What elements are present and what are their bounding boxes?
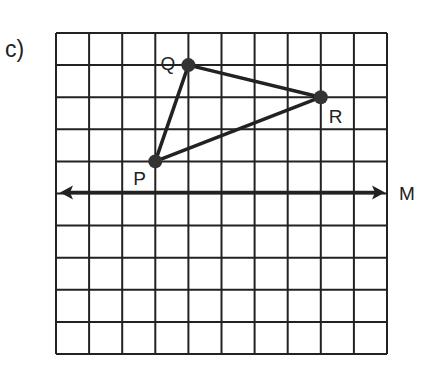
vertex-q-label: Q <box>160 53 175 74</box>
mirror-line-m: M <box>60 183 415 204</box>
vertex-q-dot <box>181 58 195 72</box>
vertex-r-label: R <box>329 106 343 127</box>
triangle-edges <box>155 65 320 161</box>
triangle-pqr <box>155 65 320 161</box>
vertex-r-dot <box>314 90 328 104</box>
vertex-p-dot <box>148 154 162 168</box>
vertex-points: QRP <box>133 53 342 189</box>
grid-diagram: M QRP <box>0 0 439 385</box>
mirror-line-label: M <box>399 183 415 204</box>
vertex-p-label: P <box>133 168 146 189</box>
